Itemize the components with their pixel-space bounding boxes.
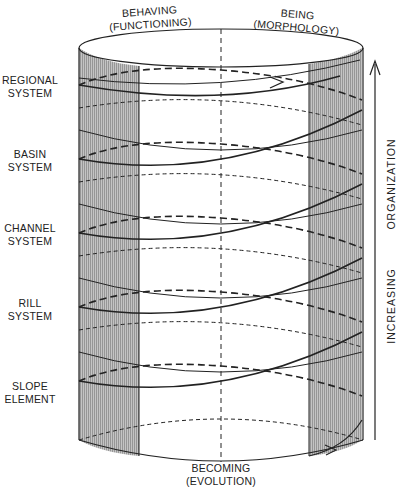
level-label-regional-system: REGIONAL SYSTEM [0,74,60,100]
level-label-basin-system: BASIN SYSTEM [0,148,60,174]
level-label-channel-system: CHANNEL SYSTEM [0,222,60,248]
becoming-label: BECOMING (EVOLUTION) [166,462,276,488]
axis-label-increasing: INCREASING [385,256,397,356]
level-label-rill-system: RILL SYSTEM [0,297,60,323]
axis-label-organization: ORGANIZATION [385,134,397,234]
helix-arrowhead [270,77,283,88]
level-label-slope-element: SLOPE ELEMENT [0,380,60,406]
right-shaded-band [309,48,362,456]
